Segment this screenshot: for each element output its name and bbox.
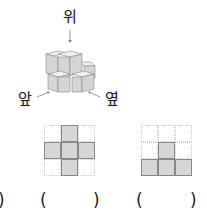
empty-cell <box>44 159 61 176</box>
cube-structure <box>0 0 207 120</box>
filled-cell <box>61 142 78 159</box>
filled-cell <box>158 159 175 176</box>
answer-close-paren-2: ) <box>190 190 197 210</box>
filled-cell <box>175 159 192 176</box>
empty-cell <box>141 142 158 159</box>
empty-cell <box>44 125 61 142</box>
empty-cell <box>175 125 192 142</box>
answer-open-paren-1: ( <box>40 190 47 210</box>
answer-open-paren-2: ( <box>136 190 143 210</box>
empty-cell <box>78 159 95 176</box>
view-grid-2 <box>141 125 192 176</box>
filled-cell <box>44 142 61 159</box>
empty-cell <box>78 125 95 142</box>
view-grid-1 <box>44 125 95 176</box>
filled-cell <box>158 142 175 159</box>
filled-cell <box>61 125 78 142</box>
filled-cell <box>61 159 78 176</box>
answer-close-paren-1: ) <box>93 190 100 210</box>
filled-cell <box>141 159 158 176</box>
filled-cell <box>78 142 95 159</box>
empty-cell <box>141 125 158 142</box>
empty-cell <box>175 142 192 159</box>
leading-close-paren: ) <box>0 190 5 210</box>
empty-cell <box>158 125 175 142</box>
